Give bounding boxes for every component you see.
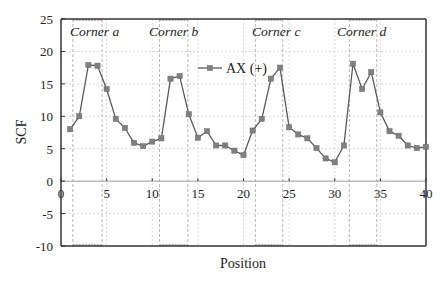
corner-region-lines (73, 19, 377, 246)
data-point-marker (223, 143, 228, 148)
legend-marker-icon (207, 65, 212, 70)
x-tick-labels: 0510152025303540 (58, 186, 433, 201)
data-point-marker (204, 129, 209, 134)
data-point-marker (369, 70, 374, 75)
x-tick-label: 25 (283, 186, 296, 201)
y-tick-label: 0 (47, 174, 54, 189)
x-axis-title: Position (220, 256, 266, 271)
data-point-marker (350, 61, 355, 66)
x-tick-label: 5 (103, 186, 110, 201)
data-point-marker (332, 160, 337, 165)
series-ax-plus (68, 61, 429, 165)
data-point-marker (131, 140, 136, 145)
y-tick-label: 15 (40, 77, 53, 92)
x-tick-label: 20 (237, 186, 250, 201)
data-point-marker (396, 133, 401, 138)
corner-label: Corner b (149, 24, 198, 39)
data-point-marker (287, 125, 292, 130)
legend-label: AX (+) (226, 61, 267, 77)
data-point-marker (186, 112, 191, 117)
y-tick-label: -5 (42, 207, 53, 222)
corner-label: Corner d (337, 24, 386, 39)
y-tick-label: -10 (36, 239, 53, 254)
data-point-marker (168, 76, 173, 81)
data-point-marker (323, 156, 328, 161)
data-point-marker (387, 129, 392, 134)
y-tick-label: 5 (47, 142, 54, 157)
data-point-marker (341, 143, 346, 148)
y-tick-labels: -10-50510152025 (36, 12, 53, 254)
data-point-marker (150, 139, 155, 144)
data-point-marker (68, 127, 73, 132)
y-axis-title: SCF (14, 119, 29, 144)
data-point-marker (232, 148, 237, 153)
corner-label: Corner a (70, 24, 119, 39)
data-point-marker (177, 73, 182, 78)
data-point-marker (414, 145, 419, 150)
series-line (70, 64, 426, 163)
y-tick-label: 20 (40, 44, 53, 59)
corner-label: Corner c (252, 24, 300, 39)
grid-lines (61, 19, 426, 246)
data-point-marker (423, 144, 428, 149)
data-point-marker (214, 143, 219, 148)
data-point-marker (104, 86, 109, 91)
data-point-marker (141, 144, 146, 149)
scf-line-chart: -10-50510152025 0510152025303540 Corner … (0, 0, 443, 282)
data-point-marker (77, 114, 82, 119)
legend: AX (+) (198, 61, 267, 77)
data-point-marker (296, 132, 301, 137)
x-tick-label: 35 (374, 186, 387, 201)
data-point-marker (305, 136, 310, 141)
data-point-marker (122, 125, 127, 130)
x-tick-label: 15 (191, 186, 204, 201)
data-point-marker (241, 153, 246, 158)
data-point-marker (405, 143, 410, 148)
data-point-marker (159, 136, 164, 141)
data-point-marker (95, 63, 100, 68)
data-point-marker (378, 110, 383, 115)
data-point-marker (250, 128, 255, 133)
corner-labels: Corner aCorner bCorner cCorner d (70, 24, 386, 39)
chart-canvas: -10-50510152025 0510152025303540 Corner … (0, 0, 443, 282)
data-point-marker (86, 62, 91, 67)
y-tick-label: 10 (40, 109, 53, 124)
x-tick-label: 30 (328, 186, 341, 201)
x-tick-label: 0 (58, 186, 65, 201)
x-tick-label: 40 (420, 186, 433, 201)
data-point-marker (195, 135, 200, 140)
y-tick-label: 25 (40, 12, 53, 27)
data-point-marker (259, 116, 264, 121)
data-point-marker (268, 76, 273, 81)
data-point-marker (314, 145, 319, 150)
data-point-marker (360, 86, 365, 91)
data-point-marker (113, 116, 118, 121)
x-tick-label: 10 (146, 186, 159, 201)
data-point-marker (277, 65, 282, 70)
